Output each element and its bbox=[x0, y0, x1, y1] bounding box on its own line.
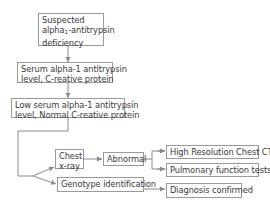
node-text-line: x-ray bbox=[59, 161, 80, 171]
node-diagnosis-confirmed: Diagnosis confirmed bbox=[166, 183, 242, 198]
node-text-line: Pulmonary function tests bbox=[170, 165, 255, 175]
node-serum-test: Serum alpha-1 antitrypsin level, C-reati… bbox=[17, 62, 113, 83]
node-genotype-identification: Genotype identification bbox=[57, 177, 144, 192]
node-chest-xray: Chest x-ray bbox=[55, 149, 84, 169]
node-abnormal: Abnormal bbox=[103, 152, 144, 166]
node-text-line: Genotype identification bbox=[61, 179, 140, 189]
node-text-line: High Resolution Chest CT bbox=[170, 147, 255, 157]
node-text-line: Suspected bbox=[42, 15, 100, 25]
node-text-part: alpha bbox=[42, 25, 65, 35]
node-high-resolution-ct: High Resolution Chest CT bbox=[166, 145, 259, 159]
node-text-line: level, C-reative protein bbox=[21, 74, 109, 84]
node-text-line: Low serum alpha-1 antitrypsin bbox=[15, 100, 121, 110]
node-pulmonary-function-tests: Pulmonary function tests bbox=[166, 163, 259, 177]
node-text-line: level, Normal C-reative protein bbox=[15, 110, 121, 120]
node-text-line: Serum alpha-1 antitrypsin bbox=[21, 64, 109, 74]
node-text-line: Diagnosis confirmed bbox=[170, 185, 238, 195]
node-text-line: alpha1-antitrypsin bbox=[42, 25, 100, 37]
node-text-part: -antitrypsin bbox=[68, 25, 114, 35]
node-text-line: deficiency bbox=[42, 38, 100, 48]
node-text-line: Chest bbox=[59, 151, 80, 161]
node-text-line: Abnormal bbox=[107, 154, 140, 164]
node-low-serum: Low serum alpha-1 antitrypsin level, Nor… bbox=[11, 98, 125, 118]
node-suspected-deficiency: Suspected alpha1-antitrypsin deficiency bbox=[38, 13, 104, 46]
